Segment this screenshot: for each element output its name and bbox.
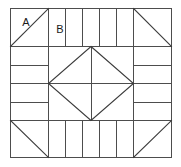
quilt-block-svg: A B bbox=[0, 0, 181, 167]
quilt-diagram-canvas: A B bbox=[0, 0, 181, 167]
label-a: A bbox=[22, 16, 30, 28]
label-b: B bbox=[56, 23, 63, 35]
